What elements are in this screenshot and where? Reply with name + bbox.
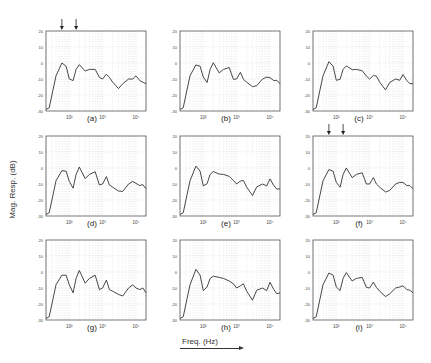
response-curve: [180, 166, 280, 214]
y-tick-label: -30: [37, 214, 44, 219]
y-tick-label: -30: [171, 214, 178, 219]
panel-a: 20100-10-20-3010²10³10⁴(a): [37, 19, 146, 123]
x-tick-label: 10⁴: [399, 220, 406, 225]
y-tick-label: -20: [171, 302, 178, 307]
y-tick-label: 20: [39, 29, 44, 34]
y-tick-label: -10: [37, 286, 44, 291]
y-tick-label: -10: [304, 286, 311, 291]
y-tick-label: 0: [41, 61, 44, 66]
y-tick-label: -20: [37, 198, 44, 203]
panel-e: 20100-10-20-3010²10³10⁴(e): [171, 134, 280, 229]
x-tick-label: 10³: [366, 220, 373, 225]
x-tick-label: 10⁴: [266, 324, 273, 329]
y-tick-label: -20: [37, 302, 44, 307]
y-tick-label: 0: [175, 166, 178, 171]
arrow-head-icon: [341, 131, 345, 135]
y-tick-label: -30: [304, 318, 311, 323]
panel-g: 20100-10-20-3010²10³10⁴(g): [37, 238, 146, 333]
y-tick-label: 20: [173, 134, 178, 139]
panel-label: (e): [221, 219, 231, 228]
x-tick-label: 10³: [233, 324, 240, 329]
y-tick-label: 10: [39, 45, 44, 50]
y-tick-label: -10: [37, 77, 44, 82]
x-tick-label: 10²: [66, 324, 73, 329]
x-tick-label: 10²: [200, 115, 207, 120]
x-tick-label: 10⁴: [266, 115, 273, 120]
y-tick-label: -30: [304, 109, 311, 114]
x-tick-label: 10²: [66, 220, 73, 225]
x-tick-label: 10³: [99, 115, 106, 120]
y-tick-label: 20: [173, 238, 178, 243]
x-tick-label: 10⁴: [132, 220, 139, 225]
y-tick-label: -30: [37, 318, 44, 323]
panel-label: (h): [221, 323, 231, 332]
x-tick-label: 10²: [200, 324, 207, 329]
y-tick-label: -10: [304, 77, 311, 82]
y-tick-label: 0: [175, 270, 178, 275]
x-tick-label: 10²: [333, 324, 340, 329]
y-tick-label: 10: [39, 254, 44, 259]
y-tick-label: 10: [306, 150, 311, 155]
panel-b: 20100-10-20-3010²10³10⁴(b): [171, 29, 280, 124]
response-curve: [180, 269, 280, 318]
panel-label: (g): [87, 323, 97, 332]
panel-i: 20100-10-20-3010²10³10⁴(i): [304, 238, 413, 333]
y-tick-label: -20: [171, 198, 178, 203]
arrow-head-icon: [60, 26, 64, 30]
y-tick-label: 20: [39, 134, 44, 139]
panel-h: 20100-10-20-3010²10³10⁴(h): [171, 238, 280, 333]
y-tick-label: 10: [306, 45, 311, 50]
panel-label: (f): [355, 219, 363, 228]
y-tick-label: 10: [39, 150, 44, 155]
panel-f: 20100-10-20-3010²10³10⁴(f): [304, 124, 413, 228]
x-tick-label: 10²: [333, 220, 340, 225]
arrow-head-icon: [74, 26, 78, 30]
y-tick-label: 20: [173, 29, 178, 34]
y-tick-label: 0: [41, 166, 44, 171]
y-tick-label: -30: [171, 318, 178, 323]
x-tick-label: 10³: [99, 220, 106, 225]
panel-label: (a): [87, 114, 97, 123]
x-tick-label: 10²: [333, 115, 340, 120]
x-tick-label: 10³: [366, 324, 373, 329]
panel-label: (d): [87, 219, 97, 228]
y-tick-label: 10: [306, 254, 311, 259]
y-tick-label: 10: [173, 45, 178, 50]
y-tick-label: -20: [171, 93, 178, 98]
y-axis-label: Mag. Resp. (dB): [2, 140, 18, 250]
y-tick-label: 20: [306, 29, 311, 34]
x-tick-label: 10⁴: [399, 324, 406, 329]
y-axis-label-text: Mag. Resp. (dB): [8, 140, 17, 240]
x-tick-label: 10²: [66, 115, 73, 120]
y-tick-label: -10: [37, 182, 44, 187]
panel-label: (b): [221, 114, 231, 123]
x-tick-label: 10³: [99, 324, 106, 329]
y-tick-label: 10: [173, 254, 178, 259]
y-tick-label: 0: [308, 166, 311, 171]
y-tick-label: 20: [39, 238, 44, 243]
y-tick-label: 0: [41, 270, 44, 275]
y-tick-label: -10: [171, 182, 178, 187]
x-tick-label: 10⁴: [266, 220, 273, 225]
y-tick-label: -10: [304, 182, 311, 187]
panel-label: (i): [355, 323, 362, 332]
y-tick-label: -30: [171, 109, 178, 114]
y-tick-label: 0: [308, 270, 311, 275]
y-tick-label: -20: [37, 93, 44, 98]
x-tick-label: 10²: [200, 220, 207, 225]
y-tick-label: -30: [37, 109, 44, 114]
y-tick-label: 10: [173, 150, 178, 155]
y-tick-label: -20: [304, 198, 311, 203]
x-axis-label: Freq. (Hz): [182, 337, 218, 346]
panel-label: (c): [354, 114, 364, 123]
x-axis-arrow: [180, 348, 240, 349]
panel-d: 20100-10-20-3010²10³10⁴(d): [37, 134, 146, 229]
arrow-head-icon: [327, 131, 331, 135]
x-tick-label: 10³: [366, 115, 373, 120]
y-tick-label: -30: [304, 214, 311, 219]
y-tick-label: -10: [171, 286, 178, 291]
plot-grid: 20100-10-20-3010²10³10⁴(a)20100-10-20-30…: [0, 0, 431, 363]
y-tick-label: 20: [306, 238, 311, 243]
y-tick-label: 0: [308, 61, 311, 66]
y-tick-label: -20: [304, 302, 311, 307]
